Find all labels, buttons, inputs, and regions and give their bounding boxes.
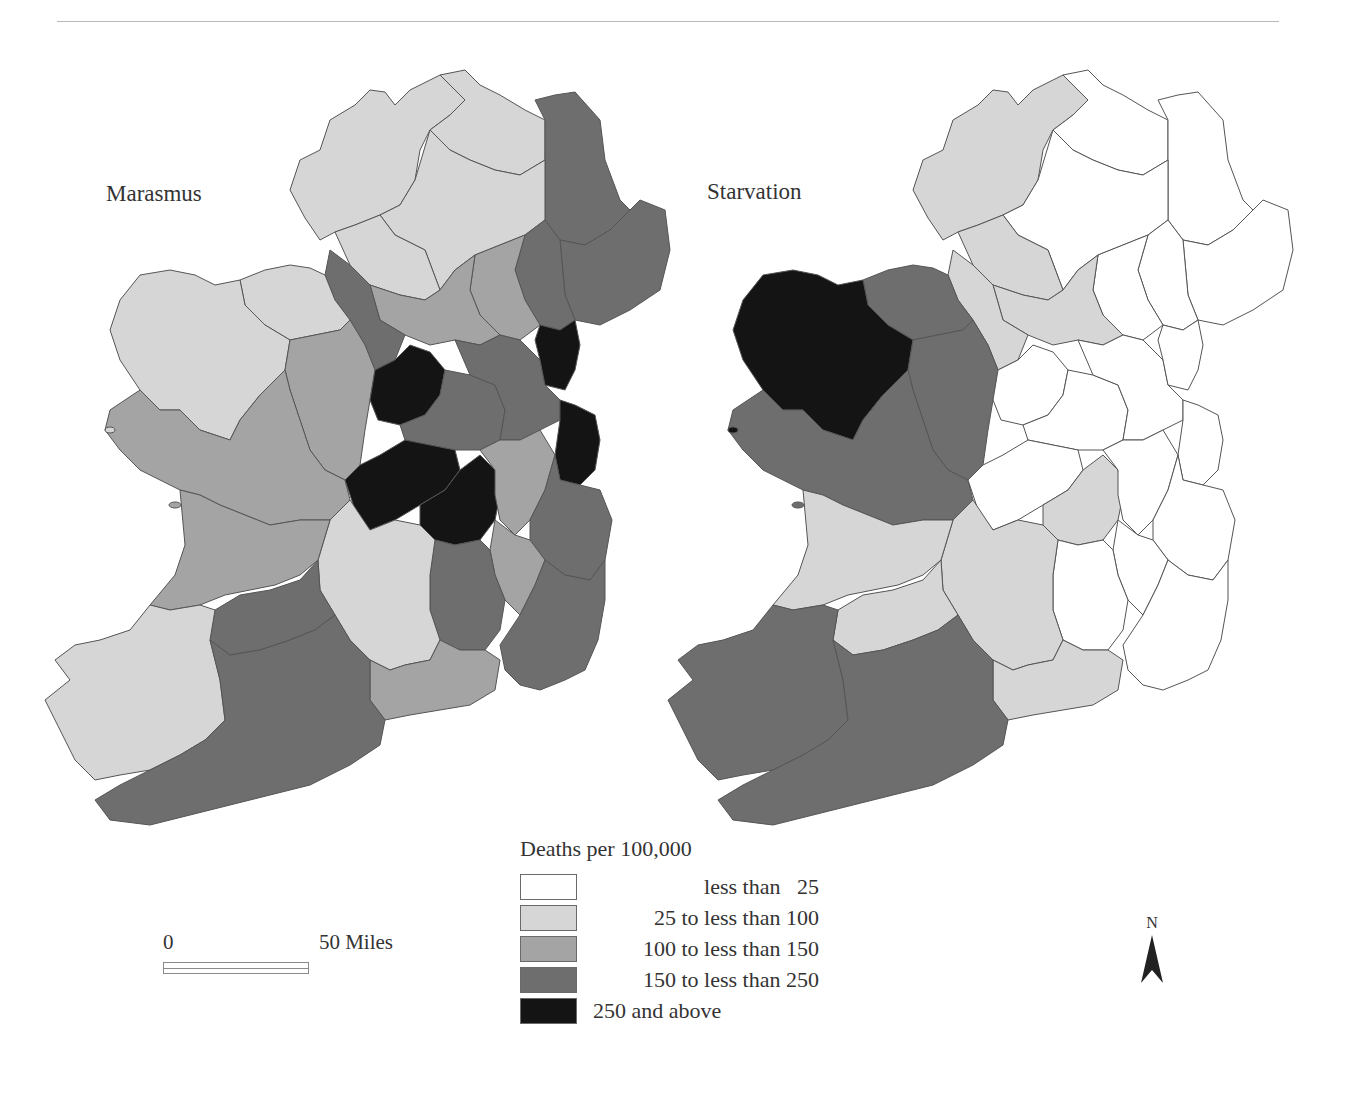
legend-item: 150 to less than 250 [520,964,850,995]
legend-label: 100 to less than 150 [579,936,819,962]
scale-start-label: 0 [163,930,174,956]
legend-item: less than 25 [520,871,850,902]
legend-label: 250 and above [579,998,833,1024]
county-antrim [535,92,630,245]
map-title-marasmus: Marasmus [106,181,202,207]
scale-bar-graphic [163,962,309,974]
legend-swatch-class-0 [520,874,577,900]
legend-swatch-class-2 [520,936,577,962]
north-label: N [1137,915,1167,931]
legend-item: 100 to less than 150 [520,933,850,964]
legend-swatch-class-4 [520,998,577,1024]
county-dublin [555,400,600,485]
legend-item: 25 to less than 100 [520,902,850,933]
legend-label: 150 to less than 250 [579,967,819,993]
legend-label: less than 25 [579,874,819,900]
legend: Deaths per 100,000 less than 25 25 to le… [520,836,850,1026]
legend-title: Deaths per 100,000 [520,836,850,862]
map-title-starvation: Starvation [707,179,802,205]
scale-end-label: 50 Miles [319,930,393,956]
legend-label: 25 to less than 100 [579,905,819,931]
north-indicator: N [1137,915,1167,990]
legend-swatch-class-3 [520,967,577,993]
legend-swatch-class-1 [520,905,577,931]
scale-bar: 0 50 Miles [163,930,313,974]
legend-item: 250 and above [520,995,850,1026]
